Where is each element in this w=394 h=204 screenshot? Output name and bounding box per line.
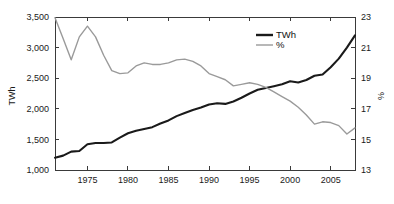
y-tick-label: 3,500 xyxy=(26,12,49,22)
chart-container: 1975198019851990199520002005 1,0001,5002… xyxy=(0,0,394,204)
x-tick-label: 1980 xyxy=(118,175,138,185)
y-tick-label: 2,000 xyxy=(26,104,49,114)
dual-axis-line-chart: 1975198019851990199520002005 1,0001,5002… xyxy=(0,0,394,204)
x-tick-label: 1985 xyxy=(158,175,178,185)
y-tick-label: 1,000 xyxy=(26,165,49,175)
plot-frame xyxy=(55,17,355,170)
y-tick-label: 1,500 xyxy=(26,135,49,145)
y2-tick-label: 23 xyxy=(361,12,371,22)
y2-tick-label: 19 xyxy=(361,73,371,83)
y2-tick-label: 17 xyxy=(361,104,371,114)
x-tick-label: 1995 xyxy=(240,175,260,185)
x-tick-label: 1975 xyxy=(77,175,97,185)
x-axis-tick-labels: 1975198019851990199520002005 xyxy=(77,175,340,185)
y-axis-right-title: % xyxy=(376,92,386,100)
x-tick-label: 1990 xyxy=(199,175,219,185)
y2-tick-label: 21 xyxy=(361,43,371,53)
y2-tick-label: 13 xyxy=(361,165,371,175)
y-axis-right-tick-labels: 131517192123 xyxy=(361,12,371,175)
y-tick-label: 2,500 xyxy=(26,73,49,83)
plot-background xyxy=(55,17,355,170)
y-axis-left-title: TWh xyxy=(7,87,17,106)
legend-label: % xyxy=(276,39,285,50)
y-tick-label: 3,000 xyxy=(26,43,49,53)
x-tick-label: 2005 xyxy=(321,175,341,185)
y-axis-left-tick-labels: 1,0001,5002,0002,5003,0003,500 xyxy=(26,12,49,175)
x-tick-label: 2000 xyxy=(280,175,300,185)
y2-tick-label: 15 xyxy=(361,135,371,145)
